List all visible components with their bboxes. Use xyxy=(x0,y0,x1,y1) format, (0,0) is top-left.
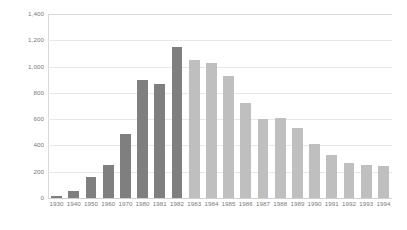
x-tick-label: 1970 xyxy=(118,201,132,207)
x-tick-label: 1990 xyxy=(308,201,322,207)
x-tick-label: 1940 xyxy=(67,201,81,207)
bar xyxy=(309,144,320,198)
bar xyxy=(326,155,337,198)
gridline-0 xyxy=(48,198,392,199)
x-tick-label: 1986 xyxy=(239,201,253,207)
bar xyxy=(275,118,286,198)
x-tick-label: 1980 xyxy=(136,201,150,207)
y-tick-label: 600 xyxy=(33,116,44,122)
bar xyxy=(103,165,114,199)
x-tick-label: 1994 xyxy=(376,201,390,207)
x-tick-label: 1984 xyxy=(204,201,218,207)
plot-area xyxy=(48,14,392,198)
y-tick-label: 0 xyxy=(40,195,44,201)
bar-series xyxy=(48,14,392,198)
bar xyxy=(120,134,131,198)
x-tick-label: 1985 xyxy=(222,201,236,207)
bar xyxy=(292,128,303,198)
bar xyxy=(137,80,148,198)
x-tick-label: 1989 xyxy=(290,201,304,207)
x-tick-label: 1960 xyxy=(101,201,115,207)
x-axis: 1930194019501960197019801981198219831984… xyxy=(48,201,392,221)
y-axis: 02004006008001,0001,2001,400 xyxy=(0,0,44,230)
bar xyxy=(51,196,62,198)
bar xyxy=(189,60,200,198)
bar xyxy=(86,177,97,198)
bar xyxy=(172,47,183,198)
bar xyxy=(258,119,269,199)
x-tick-label: 1991 xyxy=(325,201,339,207)
y-tick-label: 1,200 xyxy=(28,37,44,43)
bar xyxy=(154,84,165,198)
bar xyxy=(344,163,355,198)
x-tick-label: 1993 xyxy=(359,201,373,207)
x-tick-label: 1981 xyxy=(153,201,167,207)
x-tick-label: 1992 xyxy=(342,201,356,207)
bar-chart: 02004006008001,0001,2001,400 19301940195… xyxy=(0,0,407,230)
x-tick-label: 1930 xyxy=(50,201,64,207)
bar xyxy=(240,103,251,198)
bar xyxy=(68,191,79,198)
bar xyxy=(206,63,217,198)
x-tick-label: 1983 xyxy=(187,201,201,207)
x-tick-label: 1988 xyxy=(273,201,287,207)
y-tick-label: 1,000 xyxy=(28,63,44,69)
x-tick-label: 1950 xyxy=(84,201,98,207)
bar xyxy=(361,165,372,199)
y-tick-label: 800 xyxy=(33,90,44,96)
bar xyxy=(223,76,234,198)
y-tick-label: 1,400 xyxy=(28,11,44,17)
x-tick-label: 1987 xyxy=(256,201,270,207)
y-tick-label: 400 xyxy=(33,142,44,148)
x-tick-label: 1982 xyxy=(170,201,184,207)
bar xyxy=(378,166,389,198)
y-tick-label: 200 xyxy=(33,169,44,175)
